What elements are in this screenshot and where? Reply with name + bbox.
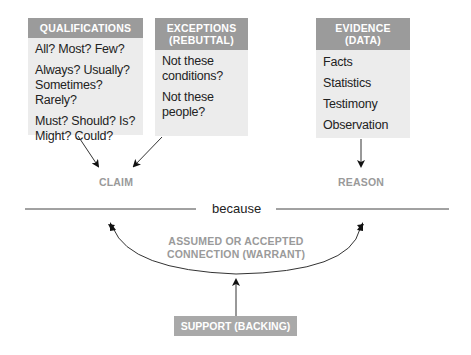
warrant-line2: CONNECTION (WARRANT) bbox=[156, 248, 316, 261]
claim-label: CLAIM bbox=[86, 176, 146, 189]
reason-label: REASON bbox=[331, 176, 391, 189]
exceptions-to-claim-arrow bbox=[134, 137, 162, 166]
because-label: because bbox=[212, 201, 261, 216]
support-backing-box: SUPPORT (BACKING) bbox=[174, 316, 297, 336]
warrant-line1: ASSUMED OR ACCEPTED bbox=[156, 235, 316, 248]
qualifications-to-claim-arrow bbox=[78, 136, 98, 166]
connector-arrows bbox=[0, 0, 471, 355]
warrant-label: ASSUMED OR ACCEPTED CONNECTION (WARRANT) bbox=[156, 235, 316, 261]
